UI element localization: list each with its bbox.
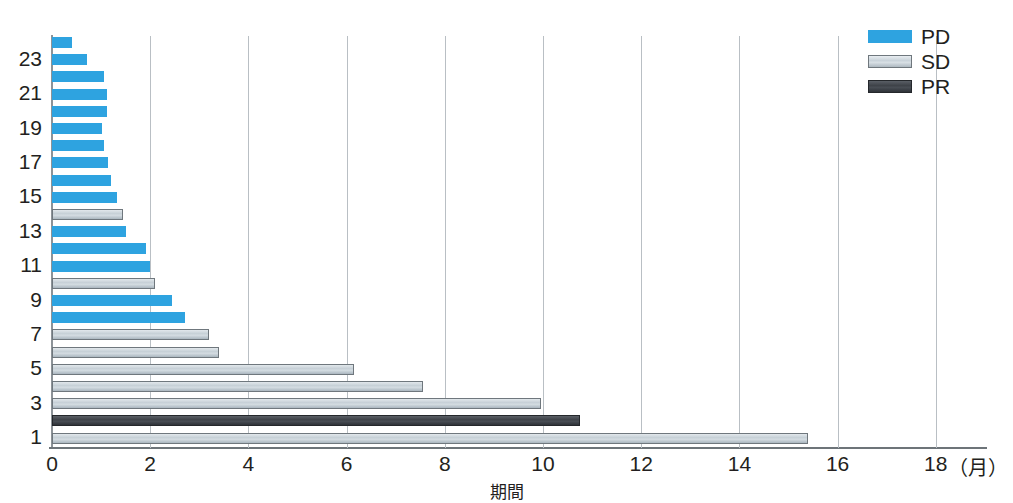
x-tick-6: 6 <box>341 452 353 476</box>
legend-swatch-pr-icon <box>868 80 912 93</box>
bar-subject-12-pd <box>52 243 146 254</box>
swimmer-bar-chart: 1357911131517192123 024681012141618 （月） … <box>0 8 1013 485</box>
x-tick-16: 16 <box>826 452 849 476</box>
y-tick-15: 15 <box>0 184 42 208</box>
y-tick-11: 11 <box>0 253 42 277</box>
y-tick-23: 23 <box>0 47 42 71</box>
legend-label: PD <box>921 26 950 47</box>
bar-row <box>52 312 987 329</box>
bar-subject-22-pd <box>52 71 104 82</box>
bar-subject-3-sd <box>52 398 541 409</box>
y-tick-7: 7 <box>0 322 42 346</box>
y-tick-19: 19 <box>0 116 42 140</box>
bar-row <box>52 209 987 226</box>
x-tick-2: 2 <box>144 452 156 476</box>
bar-subject-16-pd <box>52 175 111 186</box>
bar-subject-20-pd <box>52 106 107 117</box>
bar-row <box>52 433 987 450</box>
bar-row <box>52 54 987 71</box>
y-tick-9: 9 <box>0 288 42 312</box>
bar-subject-14-sd <box>52 209 123 220</box>
bar-row <box>52 226 987 243</box>
bar-subject-4-sd <box>52 381 423 392</box>
legend-label: SD <box>921 51 950 72</box>
bar-subject-2-pr <box>52 415 580 426</box>
x-tick-14: 14 <box>728 452 751 476</box>
bar-subject-7-sd <box>52 329 209 340</box>
legend-item-sd[interactable]: SD <box>868 49 988 74</box>
legend: PDSDPR <box>868 24 988 99</box>
bar-subject-6-sd <box>52 347 219 358</box>
bar-subject-5-sd <box>52 364 354 375</box>
bar-subject-15-pd <box>52 192 117 203</box>
bar-row <box>52 140 987 157</box>
bar-subject-23-pd <box>52 54 87 65</box>
bar-subject-9-pd <box>52 295 172 306</box>
bar-row <box>52 37 987 54</box>
bar-subject-13-pd <box>52 226 126 237</box>
x-axis-title: 期間 <box>0 478 1013 503</box>
legend-label: PR <box>921 76 950 97</box>
bar-subject-24-pd <box>52 37 72 48</box>
bar-row <box>52 295 987 312</box>
bar-row <box>52 398 987 415</box>
y-tick-3: 3 <box>0 391 42 415</box>
plot-area <box>52 36 987 448</box>
y-tick-13: 13 <box>0 219 42 243</box>
bar-row <box>52 157 987 174</box>
x-tick-18: 18 <box>924 452 947 476</box>
y-tick-1: 1 <box>0 425 42 449</box>
x-tick-8: 8 <box>439 452 451 476</box>
bar-subject-10-sd <box>52 278 155 289</box>
legend-swatch-sd-icon <box>868 55 912 68</box>
x-tick-12: 12 <box>630 452 653 476</box>
bar-subject-18-pd <box>52 140 104 151</box>
bar-row <box>52 243 987 260</box>
x-axis-unit-label: （月） <box>948 452 1008 481</box>
bar-row <box>52 278 987 295</box>
y-tick-17: 17 <box>0 150 42 174</box>
bar-subject-17-pd <box>52 157 108 168</box>
bar-row <box>52 415 987 432</box>
bar-subject-19-pd <box>52 123 102 134</box>
bar-row <box>52 123 987 140</box>
x-tick-4: 4 <box>243 452 255 476</box>
bar-subject-11-pd <box>52 261 150 272</box>
x-tick-0: 0 <box>46 452 58 476</box>
y-tick-21: 21 <box>0 81 42 105</box>
bar-subject-21-pd <box>52 89 107 100</box>
bar-row <box>52 381 987 398</box>
bar-row <box>52 364 987 381</box>
x-tick-10: 10 <box>531 452 554 476</box>
bar-row <box>52 329 987 346</box>
legend-item-pr[interactable]: PR <box>868 74 988 99</box>
bar-row <box>52 106 987 123</box>
bar-row <box>52 89 987 106</box>
bar-row <box>52 175 987 192</box>
bar-row <box>52 347 987 364</box>
bar-subject-8-pd <box>52 312 185 323</box>
bar-row <box>52 261 987 278</box>
y-tick-5: 5 <box>0 356 42 380</box>
legend-swatch-pd-icon <box>868 30 912 43</box>
bar-row <box>52 192 987 209</box>
cropped-header-text: ・・・・・・・・・・・・・・・・・・・・・・・・・・・・・・ <box>0 0 1013 7</box>
bar-subject-1-sd <box>52 433 808 444</box>
legend-item-pd[interactable]: PD <box>868 24 988 49</box>
bar-row <box>52 71 987 88</box>
